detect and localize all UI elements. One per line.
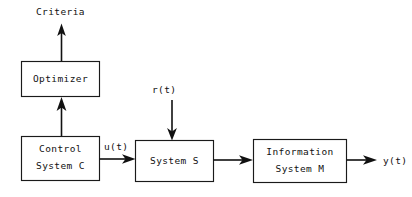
- block-optimizer[interactable]: Optimizer: [22, 62, 100, 97]
- block-control-system-c-label-line1: Control: [39, 143, 82, 154]
- criteria-arrow: [57, 24, 66, 62]
- block-system-s-label: System S: [150, 155, 199, 166]
- control-input-label: u(t): [104, 141, 128, 152]
- reference-label: r(t): [152, 84, 176, 95]
- control-to-system-arrow: [100, 154, 136, 163]
- block-information-system-m[interactable]: Information System M: [254, 140, 347, 183]
- control-to-optimizer-arrow: [57, 97, 67, 136]
- block-system-s[interactable]: System S: [136, 141, 214, 182]
- block-diagram-canvas: Criteria Optimizer Control System C u(t): [0, 0, 412, 197]
- block-optimizer-label: Optimizer: [33, 73, 88, 84]
- block-control-system-c-label-line2: System C: [36, 160, 85, 171]
- block-control-system-c[interactable]: Control System C: [22, 137, 100, 181]
- block-information-system-m-label-line2: System M: [276, 163, 325, 174]
- block-information-system-m-label-line1: Information: [266, 146, 333, 157]
- criteria-label: Criteria: [36, 6, 85, 17]
- block-diagram-svg: Criteria Optimizer Control System C u(t): [0, 0, 412, 197]
- output-label: y(t): [383, 155, 407, 166]
- output-arrow: [347, 155, 378, 164]
- system-to-info-arrow: [214, 155, 254, 164]
- reference-arrow: [167, 100, 177, 141]
